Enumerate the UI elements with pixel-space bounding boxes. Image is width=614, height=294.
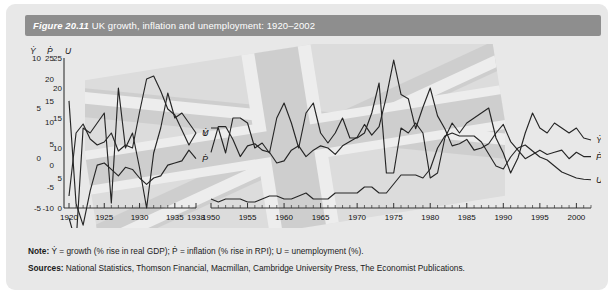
figure-title-text: UK growth, inflation and unemployment: 1… [89, 20, 315, 31]
chart-sources: Sources: National Statistics, Thomson Fi… [28, 263, 465, 273]
x-tick-label: 2000 [567, 213, 585, 222]
y-tick-label: 15 [53, 114, 62, 123]
inline-series-label-Ṗ: Ṗ [202, 154, 208, 164]
y-tick-label: 5 [37, 104, 42, 113]
figure-panel: Figure 20.11 UK growth, inflation and un… [6, 4, 608, 290]
y-tick-label: -10 [42, 204, 54, 213]
x-tick-label: 1980 [421, 213, 439, 222]
x-tick-label: 1950 [202, 213, 220, 222]
y-tick-label: 0 [58, 204, 63, 213]
y-tick-label: 20 [53, 84, 62, 93]
chart-note: Note: Ẏ = growth (% rise in real GDP); Ṗ… [28, 246, 363, 256]
x-axis-ticks: 1920192519301935193819501955196019651970… [60, 203, 591, 222]
figure-title: Figure 20.11 UK growth, inflation and un… [25, 20, 315, 31]
chart-svg: Ẏ Ṗ U 1050-52520151050-5-102520151050 19… [25, 44, 601, 228]
series-line-Ẏ [211, 83, 591, 178]
sources-text: National Statistics, Thomson Financial, … [66, 263, 465, 273]
x-tick-label: 1985 [458, 213, 476, 222]
y-tick-label: 5 [58, 174, 63, 183]
x-tick-label: 1925 [95, 213, 113, 222]
series-line-U [69, 76, 196, 196]
chart-series [69, 60, 591, 228]
right-series-label-U: U [596, 175, 601, 185]
x-tick-label: 1995 [531, 213, 549, 222]
y-tick-label: -5 [47, 183, 55, 192]
series-line-U [211, 133, 591, 202]
y-tick-label: 10 [53, 144, 62, 153]
note-prefix: Note: [28, 246, 49, 256]
y-tick-label: -5 [34, 204, 42, 213]
axis-title-unemployment: U [65, 46, 72, 56]
right-series-label-Ṗ: Ṗ [596, 152, 601, 162]
right-series-labels: ẎṖU [596, 135, 601, 185]
x-tick-label: 1970 [348, 213, 366, 222]
x-tick-label: 1935 [166, 213, 184, 222]
chart-plot-area: Ẏ Ṗ U 1050-52520151050-5-102520151050 19… [25, 44, 601, 228]
y-tick-label: 15 [45, 97, 54, 106]
y-tick-label: 10 [32, 54, 41, 63]
x-tick-label: 1965 [312, 213, 330, 222]
x-tick-label: 1960 [275, 213, 293, 222]
note-text: Ẏ = growth (% rise in real GDP); Ṗ = inf… [52, 246, 364, 256]
inline-series-labels: ẎUṖ [202, 128, 209, 164]
x-tick-label: 1975 [385, 213, 403, 222]
y-tick-label: 0 [37, 154, 42, 163]
right-series-label-Ẏ: Ẏ [596, 135, 601, 145]
y-tick-label: 25 [53, 54, 62, 63]
figure-title-bar: Figure 20.11 UK growth, inflation and un… [25, 15, 601, 36]
figure-number: Figure 20.11 [33, 20, 89, 31]
sources-prefix: Sources: [28, 263, 64, 273]
y-tick-label: 0 [50, 161, 55, 170]
inline-series-label-U: U [202, 128, 209, 138]
x-tick-label: 1955 [239, 213, 257, 222]
series-line-Ṗ [211, 60, 591, 163]
y-axis-ticks: 1050-52520151050-5-102520151050 [32, 54, 62, 213]
x-tick-label: 1930 [131, 213, 149, 222]
x-tick-label: 1990 [494, 213, 512, 222]
